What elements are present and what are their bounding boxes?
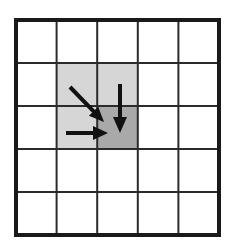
- diagram-canvas: Grid neighborhood diagram A 5 by 5 squar…: [0, 0, 234, 248]
- cell-r2c2: [57, 63, 98, 106]
- grid-diagram: [0, 0, 234, 248]
- cell-r2c3: [97, 63, 138, 106]
- cell-r3c3: [97, 106, 138, 149]
- cell-r3c2: [57, 106, 98, 149]
